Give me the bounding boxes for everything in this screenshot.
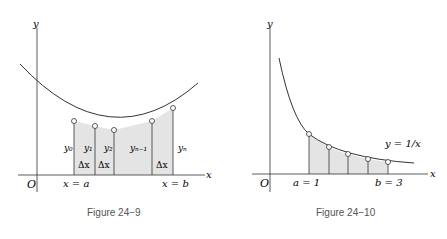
ordinate-yn: yₙ bbox=[178, 143, 187, 153]
ordinate-yn-1: yₙ₋₁ bbox=[130, 143, 147, 153]
function-label: y = 1/x bbox=[385, 138, 421, 149]
origin-label-2: O bbox=[260, 177, 269, 190]
figure-24-9 bbox=[18, 28, 205, 192]
y-axis-label-2: y bbox=[267, 18, 273, 29]
y-axis-label: y bbox=[33, 18, 39, 29]
figure-24-10 bbox=[252, 28, 428, 192]
x-axis-label: x bbox=[206, 169, 212, 180]
ordinate-y2: y₂ bbox=[104, 143, 113, 153]
ordinate-y1: y₁ bbox=[84, 143, 93, 153]
origin-label: O bbox=[27, 178, 36, 191]
figure-page: y x O x = a x = b y₀ y₁ y₂ yₙ₋₁ yₙ Δx Δx… bbox=[0, 0, 447, 239]
caption-24-10: Figure 24−10 bbox=[316, 207, 375, 218]
left-bound-label: x = a bbox=[63, 178, 89, 189]
delta-x-2: Δx bbox=[98, 160, 110, 170]
delta-x-1: Δx bbox=[78, 160, 90, 170]
x-axis-label-2: x bbox=[430, 168, 436, 179]
b-bound-label: b = 3 bbox=[375, 177, 403, 188]
caption-24-9: Figure 24−9 bbox=[87, 207, 141, 218]
a-bound-label: a = 1 bbox=[293, 177, 320, 188]
right-bound-label: x = b bbox=[162, 178, 189, 189]
figures-svg bbox=[0, 0, 447, 239]
ordinate-y0: y₀ bbox=[64, 143, 73, 153]
delta-x-3: Δx bbox=[156, 160, 168, 170]
